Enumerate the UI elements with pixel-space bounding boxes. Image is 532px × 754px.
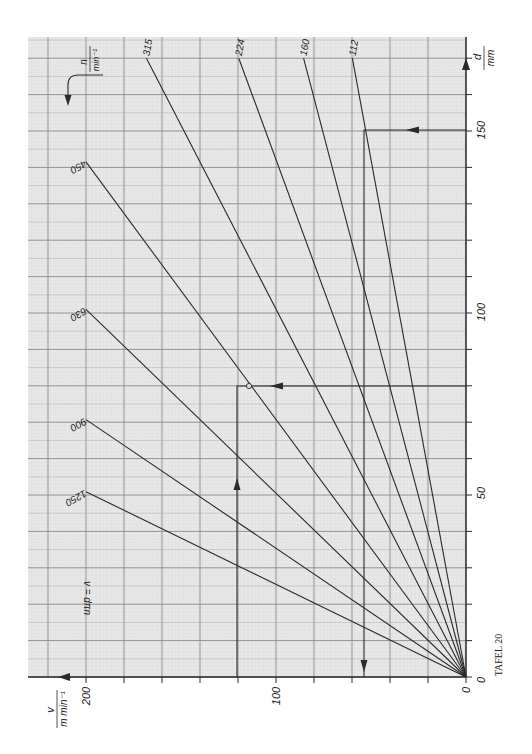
tick-label-d50: 50 [475,486,487,499]
tick-label-v100: 100 [270,686,282,705]
svg-text:v: v [44,706,56,713]
example-point-marker [246,383,251,388]
tick-label-v0: 0 [460,686,472,693]
svg-text:mm: mm [485,50,496,67]
n-label: n [78,59,89,65]
plate-number: TAFEL 20 [493,634,504,676]
tick-label-d0: 0 [475,676,487,683]
n-unit: min⁻¹ [91,49,101,72]
svg-text:m min⁻¹: m min⁻¹ [58,691,69,727]
tick-label-d100: 100 [475,302,487,321]
tick-label-v200: 200 [80,686,92,706]
tick-label-d150: 150 [475,120,487,139]
v-axis-label: v m min⁻¹ [44,690,69,728]
d-axis-label: d mm [471,46,496,70]
formula-label: v = dπn [82,581,93,616]
nomogram-chart: 1250900630450315224160112 n min⁻¹ d mm v… [0,0,532,754]
svg-text:d: d [471,53,483,60]
